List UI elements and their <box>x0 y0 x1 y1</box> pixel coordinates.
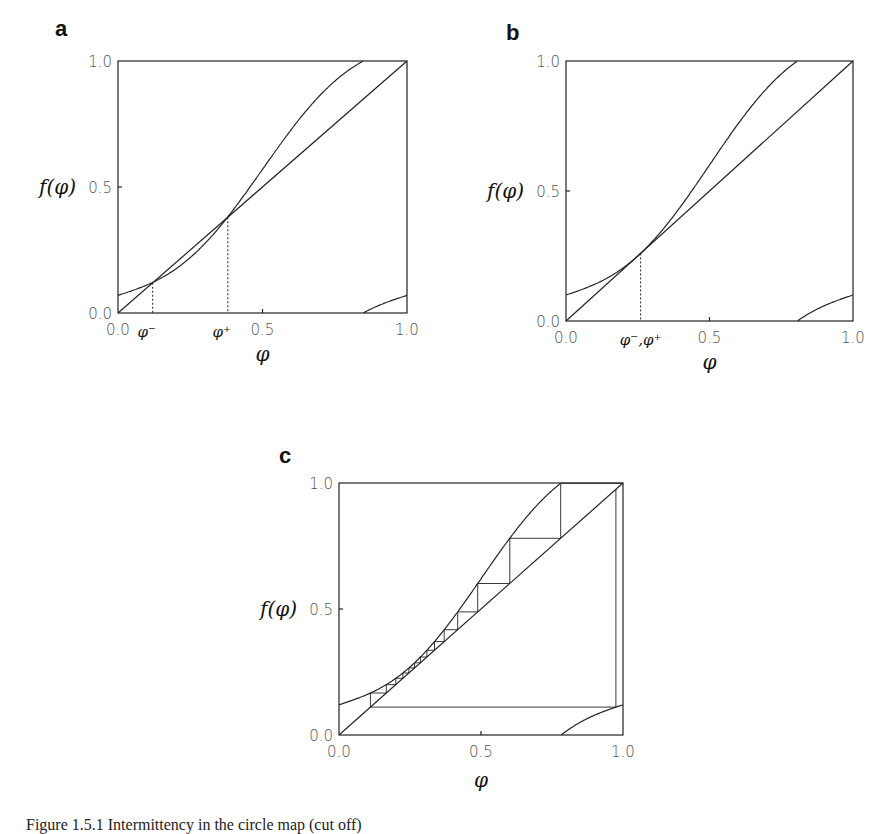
x-axis-label: φ <box>255 342 269 366</box>
y-tick-label: 1.0 <box>309 475 333 493</box>
diagonal-line <box>339 483 623 735</box>
x-tick-label: 0.0 <box>327 743 351 761</box>
fixed-point-label: φ⁺ <box>213 323 231 341</box>
y-axis-label: f(φ) <box>37 175 76 199</box>
chart-c: 0.00.00.50.51.01.0φf(φ) <box>258 475 635 792</box>
x-tick-label: 1.0 <box>395 321 419 339</box>
x-tick-label: 0.5 <box>469 743 493 761</box>
chart-a: 0.00.00.50.51.01.0φf(φ)φ⁻φ⁺ <box>37 53 419 366</box>
x-tick-label: 0.0 <box>554 329 578 347</box>
y-tick-label: 0.5 <box>88 179 112 197</box>
y-tick-label: 1.0 <box>536 53 560 71</box>
map-curve <box>561 705 623 735</box>
map-curve <box>364 295 407 312</box>
map-curve <box>566 61 797 295</box>
y-tick-label: 0.0 <box>536 313 560 331</box>
fixed-point-label: φ⁻,φ⁺ <box>620 331 662 349</box>
x-tick-label: 0.0 <box>106 321 130 339</box>
y-tick-label: 1.0 <box>88 53 112 71</box>
diagonal-line <box>566 61 853 321</box>
map-curve <box>798 295 853 321</box>
chart-b: 0.00.00.50.51.01.0φf(φ)φ⁻,φ⁺ <box>485 53 865 374</box>
y-tick-label: 0.0 <box>88 305 112 323</box>
y-tick-label: 0.5 <box>536 183 560 201</box>
x-axis-label: φ <box>702 350 716 374</box>
y-tick-label: 0.0 <box>309 727 333 745</box>
x-tick-label: 1.0 <box>611 743 635 761</box>
y-axis-label: f(φ) <box>485 179 524 203</box>
x-tick-label: 1.0 <box>841 329 865 347</box>
figure-caption: Figure 1.5.1 Intermittency in the circle… <box>26 816 866 834</box>
map-curve <box>339 483 561 704</box>
map-curve <box>118 61 363 295</box>
y-axis-label: f(φ) <box>258 597 297 621</box>
x-tick-label: 0.5 <box>698 329 722 347</box>
fixed-point-label: φ⁻ <box>137 323 155 341</box>
diagonal-line <box>118 61 407 313</box>
x-tick-label: 0.5 <box>251 321 275 339</box>
x-axis-label: φ <box>474 768 488 792</box>
y-tick-label: 0.5 <box>309 601 333 619</box>
